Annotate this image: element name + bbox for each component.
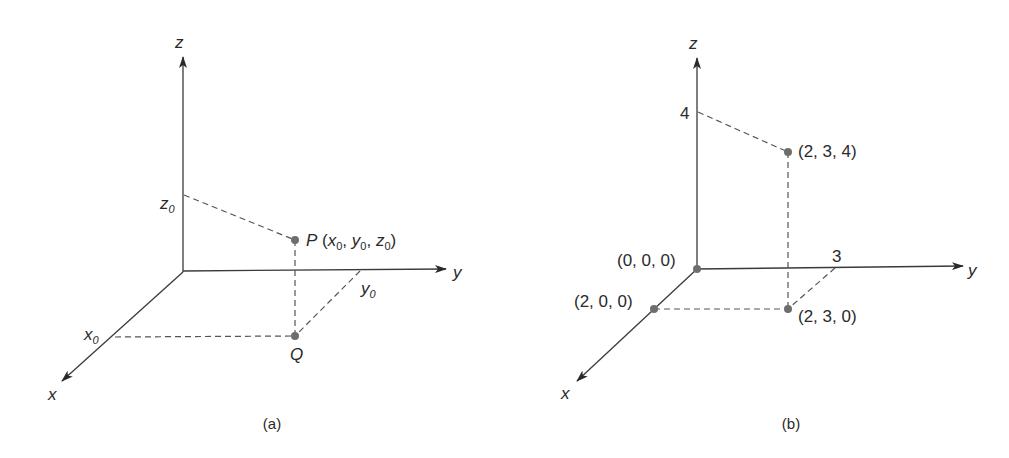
caption-b: (b) [782, 415, 800, 432]
caption-a: (a) [263, 415, 281, 432]
y-tick-3: 3 [832, 247, 841, 266]
point-2-0-0 [650, 305, 658, 313]
point-q [291, 332, 299, 340]
point-2-3-4-label: (2, 3, 4) [798, 142, 857, 161]
z0-projection-line [184, 195, 295, 240]
point-origin [693, 265, 701, 273]
y-axis-a [183, 269, 446, 271]
figure-b: z y x 4 3 (0, 0, 0) (2, 0, 0) (2, 3, 0) … [560, 34, 978, 432]
point-2-3-0-label: (2, 3, 0) [798, 307, 857, 326]
point-p-label: P (x0, y0, z0) [306, 231, 396, 252]
y-axis-b [697, 266, 963, 269]
z-axis-label-a: z [174, 33, 184, 52]
z-tick-4: 4 [680, 104, 689, 123]
coordinate-diagrams: z y x z0 y0 x0 P (x0, y0, z0) Q (a) z y … [0, 0, 1009, 458]
point-p [291, 236, 299, 244]
origin-label: (0, 0, 0) [617, 251, 676, 270]
y0-tick-label: y0 [360, 279, 377, 300]
y-axis-label-a: y [452, 263, 463, 282]
x-axis-a [62, 272, 183, 381]
x-axis-b [577, 269, 697, 381]
x0-tick-label: x0 [83, 325, 100, 346]
point-q-label: Q [290, 345, 303, 364]
figure-a: z y x z0 y0 x0 P (x0, y0, z0) Q (a) [47, 33, 463, 432]
y3-projection-line [788, 268, 835, 309]
point-2-0-0-label: (2, 0, 0) [574, 292, 633, 311]
x-axis-label-b: x [560, 384, 570, 403]
z0-tick-label: z0 [159, 194, 176, 215]
point-2-3-4 [784, 148, 792, 156]
x-axis-label-a: x [47, 385, 57, 404]
y0-projection-line [295, 271, 360, 336]
y-axis-label-b: y [967, 261, 978, 280]
point-2-3-0 [784, 305, 792, 313]
z-axis-label-b: z [688, 34, 698, 53]
x0-projection-line [115, 336, 295, 337]
z4-projection-line [698, 112, 788, 152]
